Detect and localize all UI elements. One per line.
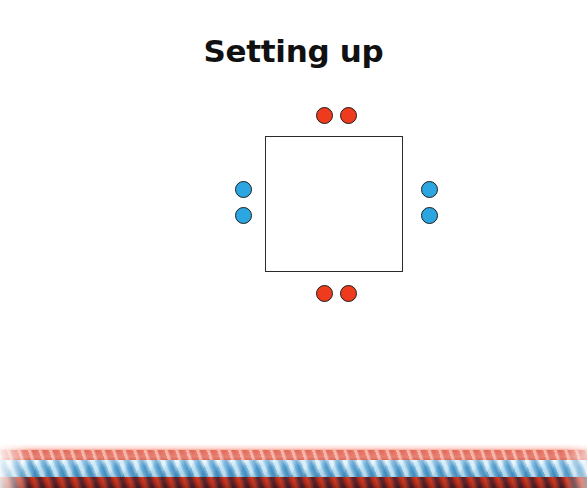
blue-dot-right-1 (421, 181, 438, 198)
red-dot-bottom-1 (316, 285, 333, 302)
blue-dot-left-2 (235, 207, 252, 224)
blue-dot-right-2 (421, 207, 438, 224)
red-dot-top-1 (316, 107, 333, 124)
rope-red-lower-strands (0, 477, 587, 488)
braided-rope-photo (0, 444, 587, 488)
blue-dot-left-1 (235, 181, 252, 198)
red-dot-top-2 (340, 107, 357, 124)
page-root: Setting up Braid 4 4 (0, 0, 587, 488)
braid-square-outline (265, 136, 403, 272)
braid-legend: Braid 4 4 (0, 330, 587, 410)
red-dot-bottom-2 (340, 285, 357, 302)
